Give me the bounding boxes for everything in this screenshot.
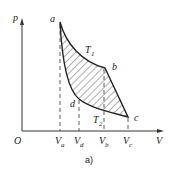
isotherm-t1-label: T 1	[85, 44, 95, 58]
svg-text:c: c	[129, 141, 133, 149]
svg-text:a: a	[61, 141, 65, 149]
point-b-label: b	[112, 61, 117, 72]
p-axis-label: p	[12, 12, 18, 23]
tick-va: V a	[55, 135, 65, 149]
origin-label: O	[14, 135, 21, 146]
point-c-label: c	[134, 112, 139, 123]
svg-text:1: 1	[91, 50, 95, 58]
svg-text:2: 2	[99, 120, 103, 128]
tick-vb: V b	[99, 135, 109, 149]
figure-caption: a)	[85, 155, 93, 165]
v-axis-arrow-icon	[157, 129, 164, 133]
svg-text:b: b	[105, 141, 109, 149]
v-axis-label: V	[156, 135, 164, 146]
point-d-label: d	[70, 98, 76, 109]
carnot-cycle-diagram: p a b c d T 1 T 2 O V V a V d V b V c a)	[0, 0, 179, 176]
tick-vc: V c	[123, 135, 133, 149]
point-a-label: a	[50, 13, 55, 24]
svg-text:d: d	[80, 141, 84, 149]
isotherm-t2-label: T 2	[93, 114, 103, 128]
p-axis-arrow-icon	[20, 18, 24, 25]
tick-vd: V d	[74, 135, 84, 149]
